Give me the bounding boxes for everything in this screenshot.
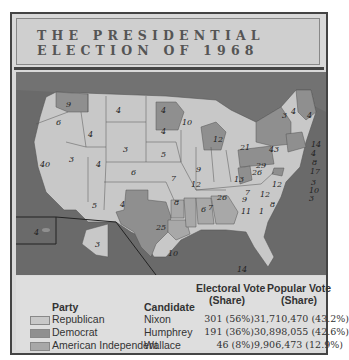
svg-text:12: 12 [191, 180, 201, 189]
svg-text:4: 4 [95, 160, 101, 169]
candidate-name: Humphrey [144, 326, 192, 338]
svg-text:26: 26 [216, 193, 227, 202]
svg-text:8: 8 [174, 198, 179, 207]
title-box: THE PRESIDENTIAL ELECTION OF 1968 [16, 18, 320, 65]
svg-text:4: 4 [160, 106, 166, 115]
legend-table: Party Candidate Electoral Vote (Share) P… [16, 276, 326, 350]
svg-text:13: 13 [234, 175, 244, 184]
svg-text:6: 6 [201, 205, 206, 214]
us-electoral-map: 9640 434 345 644 457 82510 9126 101226 7… [16, 72, 326, 275]
popular-vote: 31,710,470 (43.2%) [254, 313, 336, 324]
svg-text:9: 9 [66, 100, 71, 109]
header-electoral-vote: Electoral Vote (Share) [196, 282, 258, 306]
map-frame: THE PRESIDENTIAL ELECTION OF 1968 [10, 12, 328, 355]
header-popular-line1: Popular Vote [264, 282, 334, 294]
svg-text:3: 3 [69, 155, 74, 164]
party-name: Democrat [52, 326, 98, 338]
title-line-1: THE PRESIDENTIAL [37, 28, 265, 43]
svg-text:4: 4 [119, 200, 125, 209]
map-svg: 9640 434 345 644 457 82510 9126 101226 7… [16, 72, 326, 275]
svg-text:43: 43 [268, 145, 279, 154]
svg-text:17: 17 [310, 167, 321, 176]
svg-text:6: 6 [56, 118, 61, 127]
party-name: Republican [52, 313, 105, 325]
candidate-name: Nixon [144, 313, 171, 325]
svg-text:5: 5 [161, 150, 166, 159]
svg-text:14: 14 [237, 265, 247, 274]
svg-text:8: 8 [270, 200, 275, 209]
popular-vote: 30,898,055 (42.6%) [254, 326, 336, 337]
svg-text:4: 4 [160, 127, 166, 136]
svg-text:3: 3 [309, 194, 314, 203]
svg-text:4: 4 [306, 111, 312, 120]
svg-text:40: 40 [39, 160, 50, 169]
header-popular-line2: (Share) [264, 294, 334, 306]
electoral-vote: 191 (36%) [192, 326, 254, 337]
swatch-republican [30, 316, 50, 325]
header-popular-vote: Popular Vote (Share) [264, 282, 334, 306]
svg-text:8: 8 [312, 158, 317, 167]
svg-text:4: 4 [290, 107, 296, 116]
svg-text:12: 12 [272, 180, 282, 189]
header-electoral-line2: (Share) [196, 294, 258, 306]
svg-text:25: 25 [155, 223, 166, 232]
party-name: American Independent [52, 339, 158, 351]
svg-text:12: 12 [260, 190, 270, 199]
header-candidate: Candidate [144, 301, 195, 313]
svg-text:6: 6 [131, 168, 136, 177]
header-electoral-line1: Electoral Vote [196, 282, 258, 294]
candidate-name: Wallace [144, 339, 181, 351]
svg-text:1: 1 [259, 207, 264, 216]
svg-text:9: 9 [196, 165, 201, 174]
popular-vote: 9,906,473 (12.9%) [254, 339, 336, 350]
electoral-vote: 301 (56%) [192, 313, 254, 324]
svg-text:3: 3 [123, 145, 128, 154]
header-party: Party [52, 301, 78, 313]
svg-text:3: 3 [95, 240, 100, 249]
swatch-democrat [30, 329, 50, 338]
svg-text:10: 10 [182, 118, 192, 127]
svg-text:11: 11 [241, 207, 251, 216]
svg-text:4: 4 [87, 130, 93, 139]
svg-text:4: 4 [310, 149, 316, 158]
page-title: THE PRESIDENTIAL ELECTION OF 1968 [37, 28, 265, 58]
title-line-2: ELECTION OF 1968 [37, 43, 265, 58]
svg-text:12: 12 [213, 135, 223, 144]
electoral-vote: 46 (8%) [192, 339, 254, 350]
svg-text:21: 21 [239, 143, 250, 152]
svg-text:4: 4 [115, 106, 121, 115]
svg-text:29: 29 [255, 161, 266, 170]
divider [14, 67, 324, 70]
svg-text:3: 3 [282, 111, 287, 120]
svg-text:4: 4 [33, 228, 39, 237]
svg-text:14: 14 [311, 140, 321, 149]
svg-text:10: 10 [168, 249, 178, 258]
svg-text:5: 5 [92, 201, 97, 210]
swatch-american-independent [30, 342, 50, 351]
